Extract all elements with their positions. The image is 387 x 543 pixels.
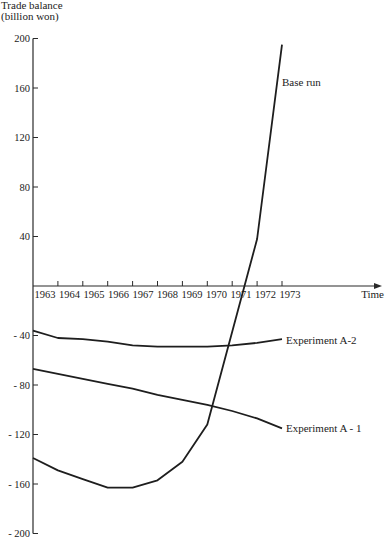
y-tick-label: - 120 [8,429,30,440]
y-tick-label: - 80 [13,380,30,391]
series-label-0: Base run [282,76,321,88]
series-label-1: Experiment A-2 [286,334,357,346]
y-tick-label: - 160 [8,479,30,490]
series-label-2: Experiment A - 1 [286,422,361,434]
series-line-0 [33,45,282,488]
x-tick-label: 1970 [206,289,227,300]
y-tick-label: 80 [20,182,31,193]
series-line-1 [33,331,282,347]
series-line-2 [33,369,282,428]
line-chart: 2001601208040- 40- 80- 120- 160- 2001963… [0,0,387,543]
x-tick-label: 1968 [157,289,178,300]
series-labels: Base runExperiment A-2Experiment A - 1 [282,76,361,434]
x-tick-label: 1965 [84,289,105,300]
series-lines [33,45,282,488]
x-tick-label: 1972 [255,289,276,300]
y-tick-label: - 200 [8,528,30,539]
y-tick-label: 200 [14,33,30,44]
axes: 2001601208040- 40- 80- 120- 160- 2001963… [8,33,384,539]
x-tick-label: 1966 [108,289,129,300]
x-tick-label: 1964 [59,289,81,300]
y-tick-label: 120 [14,132,30,143]
x-tick-label: 1963 [35,289,56,300]
y-tick-label: - 40 [13,330,30,341]
x-axis-title: Time [361,288,384,300]
y-tick-label: 160 [14,83,30,94]
x-tick-label: 1967 [133,289,154,300]
y-tick-label: 40 [20,231,31,242]
x-tick-label: 1969 [182,289,203,300]
x-tick-label: 1973 [280,289,301,300]
